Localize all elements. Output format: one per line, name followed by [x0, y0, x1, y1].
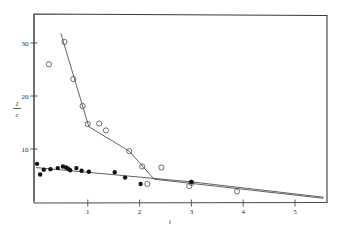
y-tick-label: 30: [22, 40, 30, 48]
data-point-filled-circle: [123, 175, 127, 179]
y-axis-title-numerator: 1: [15, 100, 19, 108]
data-point-filled-circle: [38, 172, 42, 176]
y-axis-ticks: 102030: [22, 40, 38, 154]
data-point-filled-circle: [35, 162, 39, 166]
data-point-filled-circle: [113, 170, 117, 174]
plot-frame: [34, 14, 327, 203]
x-axis-title: t: [169, 218, 172, 226]
data-point-filled-circle: [87, 170, 91, 174]
x-tick-label: 3: [190, 208, 194, 216]
data-points-filled-circles: [35, 162, 194, 187]
data-point-filled-circle: [74, 166, 78, 170]
chart-figure: 12345 102030 1 c t: [0, 0, 345, 235]
data-point-open-circle: [234, 189, 239, 194]
x-tick-label: 2: [138, 208, 142, 216]
data-point-open-circle: [103, 128, 108, 133]
data-point-filled-circle: [189, 180, 193, 184]
data-point-open-circle: [62, 39, 67, 44]
data-point-filled-circle: [79, 169, 83, 173]
x-axis-ticks: 12345: [86, 200, 297, 217]
x-tick-label: 5: [293, 208, 297, 216]
x-axis: 12345: [34, 200, 327, 217]
data-point-filled-circle: [68, 168, 72, 172]
series-fit-lines: [36, 33, 323, 198]
y-tick-label: 20: [22, 93, 30, 101]
data-point-filled-circle: [42, 167, 46, 171]
x-tick-label: 4: [241, 208, 245, 216]
data-point-open-circle: [97, 121, 102, 126]
data-point-filled-circle: [48, 167, 52, 171]
data-point-filled-circle: [138, 182, 142, 186]
y-axis: 102030: [22, 14, 38, 203]
x-tick-label: 1: [86, 208, 90, 216]
data-point-open-circle: [140, 164, 145, 169]
data-point-filled-circle: [56, 166, 60, 170]
data-point-open-circle: [46, 62, 51, 67]
y-axis-title-denominator: c: [15, 111, 19, 119]
data-point-open-circle: [159, 165, 164, 170]
data-point-open-circle: [71, 76, 76, 81]
y-axis-title: 1 c: [13, 100, 21, 119]
data-point-open-circle: [145, 181, 150, 186]
y-tick-label: 10: [22, 146, 30, 154]
